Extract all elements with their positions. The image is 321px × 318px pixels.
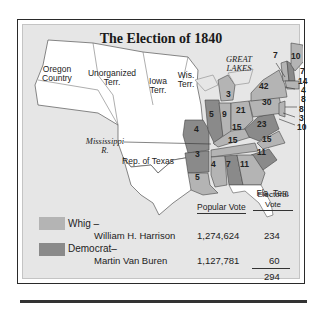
- ev-michigan: 3: [226, 89, 231, 99]
- ev-kentucky: 15: [232, 122, 241, 132]
- header-electoral-vote: Electoral Vote: [253, 190, 293, 211]
- whig-candidate: William H. Harrison: [94, 230, 175, 241]
- total-rule: [252, 268, 290, 269]
- democrat-party-label: Democrat–: [68, 243, 117, 254]
- democrat-electoral-vote: 60: [269, 255, 280, 266]
- bottom-rule: [20, 300, 307, 303]
- label-republic-of-texas: Rep. of Texas: [118, 157, 178, 166]
- ev-missouri: 4: [194, 124, 199, 134]
- ev-pennsylvania: 30: [262, 97, 271, 107]
- ev-connecticut: 8: [301, 94, 306, 104]
- whig-electoral-vote: 234: [264, 230, 280, 241]
- whig-swatch: [39, 217, 65, 230]
- whig-party-label: Whig –: [68, 218, 99, 229]
- ev-new-york: 42: [259, 81, 268, 91]
- figure-frame: The Election of 1840: [17, 19, 305, 284]
- ev-louisiana: 5: [195, 172, 200, 182]
- ev-illinois: 5: [209, 109, 214, 119]
- democrat-swatch: [39, 243, 65, 256]
- label-great-lakes: GREAT LAKES: [223, 55, 255, 73]
- democrat-candidate: Martin Van Buren: [94, 255, 167, 266]
- label-oregon-country: Oregon Country: [35, 65, 79, 83]
- header-electoral-line2: Vote: [253, 200, 293, 210]
- whig-popular-vote: 1,274,624: [197, 230, 239, 241]
- ev-tennessee: 15: [228, 135, 237, 145]
- ev-arkansas: 3: [195, 149, 200, 159]
- ev-georgia: 11: [240, 159, 249, 169]
- ev-ohio: 21: [236, 105, 245, 115]
- header-popular-vote: Popular Vote: [197, 202, 246, 214]
- ev-north-carolina: 15: [262, 134, 271, 144]
- figure-background: The Election of 1840: [22, 24, 300, 279]
- state-new-jersey: [279, 101, 285, 117]
- state-southern-new-england: [285, 81, 299, 89]
- label-mississippi-river: Mississippi R.: [83, 137, 127, 155]
- ev-vermont: 7: [273, 50, 278, 60]
- ev-maine: 10: [291, 51, 300, 61]
- ev-mississippi: 4: [211, 159, 216, 169]
- ev-south-carolina: 11: [257, 147, 266, 157]
- ev-indiana: 9: [222, 109, 227, 119]
- total-electoral-vote: 294: [264, 271, 280, 282]
- label-wisconsin-territory: Wis. Terr.: [173, 71, 199, 89]
- ev-new-hampshire: 7: [300, 66, 305, 76]
- label-unorganized-territory: Unorganized Terr.: [85, 69, 139, 87]
- ev-virginia: 23: [257, 119, 266, 129]
- ev-maryland: 10: [297, 122, 306, 132]
- democrat-popular-vote: 1,127,781: [197, 255, 239, 266]
- ev-alabama: 7: [226, 159, 231, 169]
- label-iowa-territory: Iowa Terr.: [143, 77, 173, 95]
- header-electoral-line1: Electoral: [253, 190, 293, 200]
